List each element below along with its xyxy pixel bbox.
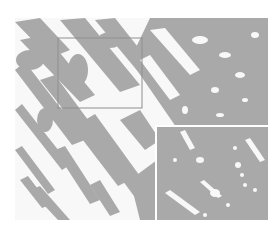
inset-image — [155, 125, 270, 222]
micrograph-figure — [0, 0, 280, 234]
micrograph-svg — [0, 0, 280, 234]
